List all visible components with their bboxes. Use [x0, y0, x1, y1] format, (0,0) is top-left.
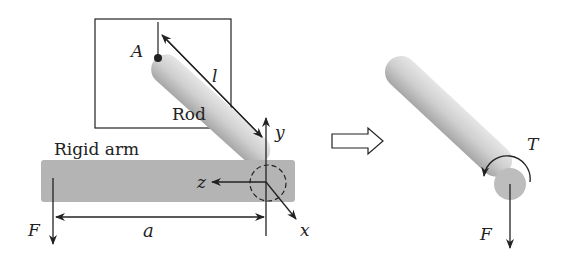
label-distance-a: a — [143, 220, 154, 241]
right-panel: T F — [378, 49, 540, 248]
label-axis-z: z — [196, 172, 207, 192]
torsion-diagram: A l Rod Rigid arm y z x F a T F — [0, 0, 562, 261]
free-body-rod — [378, 49, 518, 183]
label-force-left: F — [27, 220, 41, 240]
label-rigid-arm: Rigid arm — [54, 139, 139, 159]
label-point-a: A — [129, 41, 143, 61]
left-panel: A l Rod Rigid arm y z x F a — [27, 19, 310, 244]
point-a-dot — [154, 54, 162, 62]
hollow-right-arrow-icon — [332, 128, 383, 154]
label-rod: Rod — [172, 104, 206, 124]
label-length-l: l — [212, 66, 217, 86]
label-axis-y: y — [274, 122, 285, 142]
label-force-right: F — [479, 224, 493, 244]
rigid-arm — [41, 160, 295, 202]
label-axis-x: x — [300, 220, 310, 240]
label-torque: T — [527, 134, 540, 154]
